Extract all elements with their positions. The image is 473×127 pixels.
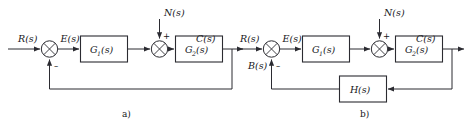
b-label-feedback-b: B(s) <box>247 60 268 71</box>
b-block-g1-arg: (s) <box>323 44 336 55</box>
b-label-output-c: C(s) <box>416 33 436 44</box>
diagram-canvas: R(s) E(s) N(s) C(s) – + G 1 (s) G 2 (s) … <box>0 0 473 127</box>
b-block-g2-arg: (s) <box>416 44 429 55</box>
b-label-input-r: R(s) <box>239 33 260 44</box>
a-caption: a) <box>122 109 131 119</box>
b-sign-plus: + <box>383 31 390 41</box>
a-sign-minus: – <box>54 61 58 71</box>
a-label-output-c: C(s) <box>196 33 216 44</box>
block-diagram-figure: R(s) E(s) N(s) C(s) – + G 1 (s) G 2 (s) … <box>0 0 473 127</box>
a-block-g2-arg: (s) <box>196 44 209 55</box>
a-label-disturbance-n: N(s) <box>163 7 185 18</box>
a-block-g1-arg: (s) <box>101 44 114 55</box>
diagram-a: R(s) E(s) N(s) C(s) – + G 1 (s) G 2 (s) … <box>8 7 243 119</box>
b-label-error-e: E(s) <box>282 33 303 44</box>
a-label-input-r: R(s) <box>17 33 38 44</box>
b-block-h-arg: (s) <box>358 84 371 95</box>
b-caption: b) <box>360 109 369 119</box>
a-sign-plus: + <box>163 31 170 41</box>
b-label-disturbance-n: N(s) <box>383 7 405 18</box>
diagram-b: R(s) E(s) B(s) N(s) C(s) – + G 1 (s) G 2… <box>239 7 464 119</box>
a-label-error-e: E(s) <box>60 33 81 44</box>
b-sign-minus: – <box>276 61 280 71</box>
